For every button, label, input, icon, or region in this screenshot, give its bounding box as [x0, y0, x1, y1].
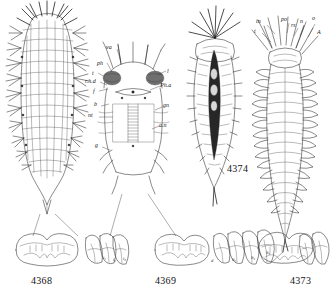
label-rhd: r.h.d — [85, 78, 96, 84]
figure-4368-artwork — [6, 1, 89, 236]
figure-4374-artwork — [187, 6, 242, 206]
figure-number-4368: 4368 — [31, 275, 52, 286]
detail-4369-artwork — [155, 230, 274, 266]
label-po: po — [281, 16, 287, 22]
label-i2: i₂ — [113, 258, 116, 263]
label-an: a.n — [159, 122, 167, 128]
label-pha: Ph.a — [160, 82, 171, 88]
plate-artwork — [0, 0, 334, 298]
label-t: t — [92, 70, 94, 76]
illustration-plate: va ph t r.h.d f b nt g l Ph.a gn a.n — [0, 0, 334, 298]
detail-4368-artwork — [16, 233, 129, 266]
figure-number-4374: 4374 — [227, 163, 248, 174]
label-va: va — [106, 44, 112, 50]
label-l: l — [167, 68, 169, 74]
label-gn: gn — [163, 102, 169, 108]
figure-number-4369: 4369 — [155, 275, 176, 286]
label-g: g — [95, 142, 98, 148]
label-i3: i₃ — [123, 257, 126, 262]
label-lt3: lt₃ — [266, 251, 270, 256]
label-rs: rs — [291, 22, 296, 28]
label-tn: tn — [256, 18, 261, 24]
label-A: A — [317, 29, 321, 35]
figure-number-4373: 4373 — [290, 275, 311, 286]
label-ph: ph — [97, 60, 103, 66]
label-t2: t — [254, 28, 256, 34]
label-d: d — [211, 259, 213, 264]
label-b: b — [94, 101, 97, 107]
figure-4369-artwork — [98, 42, 176, 236]
label-n: n — [300, 18, 303, 24]
label-f: f — [93, 88, 95, 94]
label-o: o — [312, 15, 315, 21]
label-i1: i₁ — [103, 256, 106, 261]
label-lt1: lt₁ — [232, 258, 236, 263]
label-lt2: lt₂ — [251, 256, 255, 261]
figure-4373-artwork — [252, 16, 318, 262]
detail-4373-artwork — [258, 232, 329, 264]
label-nt: nt — [88, 112, 93, 118]
